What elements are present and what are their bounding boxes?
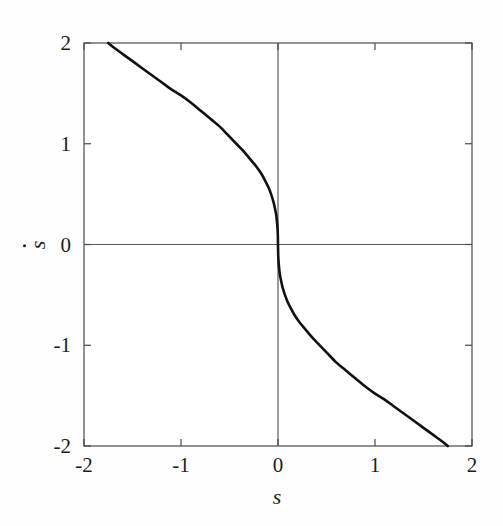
y-tick-label: 0 <box>61 234 72 255</box>
y-axis-title: s <box>27 241 49 250</box>
y-tick-label: -1 <box>54 335 72 356</box>
x-tick-label: 1 <box>370 455 381 476</box>
x-tick-label: -2 <box>75 455 93 476</box>
y-tick-label: 2 <box>61 33 72 54</box>
y-tick-label: -2 <box>54 436 72 457</box>
x-axis-title: s <box>273 486 282 508</box>
y-axis-title-text: s <box>27 241 49 250</box>
x-tick-label: 2 <box>467 455 478 476</box>
figure-container: 2 1 0 -1 -2 -2 -1 0 1 2 s s <box>0 0 503 526</box>
x-axis-title-text: s <box>273 484 282 509</box>
y-tick-label: 1 <box>61 133 72 154</box>
x-tick-label: -1 <box>172 455 190 476</box>
x-tick-label: 0 <box>273 455 284 476</box>
plot-canvas <box>0 0 503 526</box>
